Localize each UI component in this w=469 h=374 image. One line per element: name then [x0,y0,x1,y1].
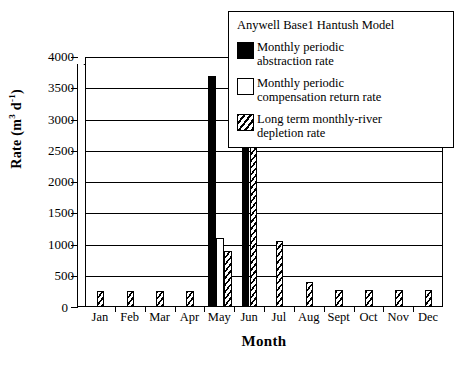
y-tickmark-1000 [71,245,78,246]
legend-label-abstraction-line2: abstraction rate [257,54,344,68]
legend-label-compensation: Monthly periodic compensation return rat… [257,76,381,105]
y-axis-tick-label-2000: 2000 [34,175,74,188]
legend-label-compensation-line2: compensation return rate [257,90,381,104]
bar-aug-depletion [306,282,314,307]
legend-label-depletion-line2: depletion rate [257,126,382,140]
legend-label-abstraction-line1: Monthly periodic [257,40,344,54]
legend-item-abstraction: Monthly periodic abstraction rate [237,40,447,69]
y-tickmark-0 [71,307,78,308]
x-axis-tick-label-feb: Feb [115,311,145,324]
y-axis-title-exponent-minus1: -1 [7,94,17,102]
y-tickmark-2500 [71,151,78,152]
x-axis-tick-label-aug: Aug [294,311,324,324]
legend-label-depletion: Long term monthly-river depletion rate [257,112,382,141]
y-axis-tick-labels: 5001000150020002500300035004000 [22,0,74,374]
legend-item-depletion: Long term monthly-river depletion rate [237,112,447,141]
bar-jun-depletion [250,145,258,308]
legend-swatch-depletion-icon [237,114,254,131]
y-axis-tick-label-3000: 3000 [34,113,74,126]
y-tickmark-3500 [71,88,78,89]
legend-swatch-compensation-icon [237,78,254,95]
x-axis-tick-label-jul: Jul [264,311,294,324]
legend-label-depletion-line1: Long term monthly-river [257,112,382,126]
x-axis-tick-label-oct: Oct [354,311,384,324]
y-tickmark-4000 [71,57,78,58]
y-axis-tick-label-500: 500 [34,269,74,282]
bar-chart: Rate (m3 d-1) 50010001500200025003000350… [0,0,469,374]
x-axis-title: Month [85,333,443,350]
y-tickmark-2000 [71,182,78,183]
bar-jan-depletion [97,291,105,307]
x-axis-tick-label-jun: Jun [234,311,264,324]
bar-dec-depletion [425,290,433,308]
x-axis-tick-label-may: May [204,311,234,324]
bar-apr-depletion [186,291,194,307]
x-axis-tick-labels: JanFebMarAprMayJunJulAugSeptOctNovDec [85,311,443,329]
y-axis-title-exponent-3: 3 [7,114,17,119]
x-axis-tick-label-dec: Dec [413,311,443,324]
bar-may-compensation [216,238,224,307]
y-axis-tick-label-4000: 4000 [34,50,74,63]
bar-jul-depletion [276,241,284,307]
y-axis-depth-spine [77,64,85,307]
x-axis-tick-label-mar: Mar [145,311,175,324]
x-axis-tick-label-apr: Apr [175,311,205,324]
y-tickmark-1500 [71,213,78,214]
y-axis-tick-label-3500: 3500 [34,81,74,94]
bar-may-abstraction [208,76,216,307]
bar-nov-depletion [395,290,403,308]
y-axis-tick-label-2500: 2500 [34,144,74,157]
y-tickmark-3000 [71,120,78,121]
bar-may-depletion [224,251,232,307]
y-axis-tick-label-zero: 0 [38,300,68,316]
legend-label-abstraction: Monthly periodic abstraction rate [257,40,344,69]
y-axis-tick-label-1500: 1500 [34,206,74,219]
legend-swatch-abstraction-icon [237,42,254,59]
x-axis-tick-label-nov: Nov [383,311,413,324]
y-tickmark-500 [71,276,78,277]
x-axis-tick-label-sept: Sept [324,311,354,324]
legend-label-compensation-line1: Monthly periodic [257,76,381,90]
bar-feb-depletion [127,291,135,307]
bar-mar-depletion [156,291,164,307]
chart-legend: Anywell Base1 Hantush Model Monthly peri… [228,11,454,148]
bar-sept-depletion [335,290,343,308]
x-axis-tick-label-jan: Jan [85,311,115,324]
y-axis-tick-label-1000: 1000 [34,238,74,251]
legend-title: Anywell Base1 Hantush Model [237,18,447,33]
bar-oct-depletion [365,290,373,308]
legend-item-compensation: Monthly periodic compensation return rat… [237,76,447,105]
